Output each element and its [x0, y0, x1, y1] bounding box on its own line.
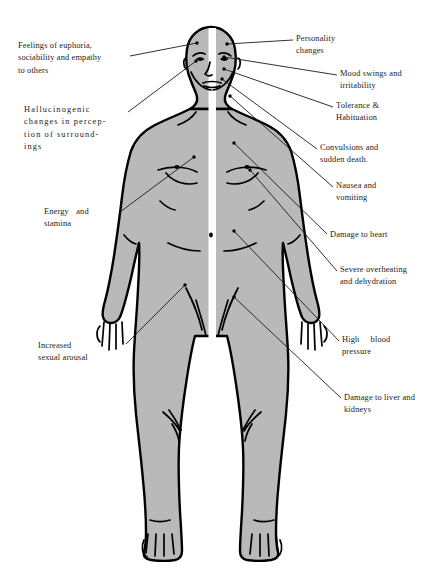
leader-hallucinogenic: [128, 61, 196, 112]
leader-convulsions: [222, 79, 317, 149]
leader-damage-heart: [234, 143, 327, 234]
label-tolerance-habituation: Tolerance & Habituation: [336, 100, 440, 125]
label-mood-swings: Mood swings and irritability: [340, 68, 444, 93]
leader-high-blood-pressure: [234, 231, 339, 341]
leader-tolerance: [224, 69, 333, 107]
leader-mood-swings: [224, 57, 337, 75]
label-damage-liver-kidneys: Damage to liver and kidneys: [344, 392, 444, 417]
label-euphoria: Feelings of euphoria, sociability and em…: [18, 40, 126, 77]
label-sexual-arousal: Increased sexual arousal: [38, 340, 128, 365]
leader-sexual-arousal: [126, 285, 185, 344]
label-severe-overheating: Severe overheating and dehydration: [340, 264, 445, 289]
label-energy-stamina: Energy and stamina: [44, 206, 122, 231]
leader-euphoria: [130, 43, 197, 56]
label-high-blood-pressure: High blood pressure: [342, 334, 440, 359]
leader-energy: [120, 157, 194, 212]
diagram-canvas: Feelings of euphoria, sociability and em…: [0, 0, 445, 582]
leader-endpoint-dots: [183, 41, 251, 298]
label-personality-changes: Personality changes: [296, 33, 396, 58]
label-convulsions: Convulsions and sudden death.: [320, 142, 430, 167]
label-nausea-vomiting: Nausea and vomiting: [336, 180, 432, 205]
leader-personality: [227, 40, 293, 44]
leader-damage-liver: [234, 297, 341, 398]
label-damage-to-heart: Damage to heart: [330, 229, 438, 241]
label-hallucinogenic: Hallucinogenic changes in percep- tion o…: [24, 104, 124, 154]
leader-overheating: [250, 170, 337, 271]
leader-nausea: [230, 96, 333, 187]
